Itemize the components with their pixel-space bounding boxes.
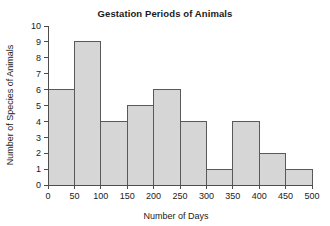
x-axis-tick-label: 100 (93, 191, 108, 201)
histogram-bar (74, 42, 100, 185)
x-axis-tick-label: 300 (199, 191, 214, 201)
histogram-bar (154, 90, 180, 185)
histogram-bar (259, 153, 285, 185)
x-axis-tick-label: 400 (252, 191, 267, 201)
y-axis-tick-label: 0 (36, 180, 41, 190)
chart-svg: Gestation Periods of Animals 05010015020… (0, 0, 330, 226)
histogram-bar (180, 121, 206, 185)
y-axis-tick-label: 9 (36, 37, 41, 47)
y-axis-tick-label: 6 (36, 85, 41, 95)
histogram-bar (127, 106, 153, 186)
x-axis-tick-label: 200 (146, 191, 161, 201)
histogram-chart: Gestation Periods of Animals 05010015020… (0, 0, 330, 226)
x-axis-label: Number of Days (143, 211, 209, 221)
histogram-bar (233, 121, 259, 185)
x-axis-tick-label: 500 (304, 191, 319, 201)
x-axis-tick-label: 250 (172, 191, 187, 201)
y-axis-tick-label: 3 (36, 133, 41, 143)
y-axis-tick-label: 10 (31, 21, 41, 31)
histogram-bar (48, 90, 74, 185)
x-axis-tick-label: 50 (69, 191, 79, 201)
y-axis-tick-label: 4 (36, 117, 41, 127)
y-axis-tick-label: 7 (36, 69, 41, 79)
x-axis-tick-label: 0 (45, 191, 50, 201)
x-axis-tick-label: 150 (120, 191, 135, 201)
y-axis-tick-label: 5 (36, 101, 41, 111)
histogram-bar (101, 121, 127, 185)
y-axis-label: Number of Species of Animals (5, 44, 15, 165)
histogram-bar (206, 169, 232, 185)
chart-title: Gestation Periods of Animals (98, 8, 233, 19)
histogram-bar (286, 169, 312, 185)
y-axis-tick-label: 1 (36, 164, 41, 174)
x-axis-tick-label: 450 (278, 191, 293, 201)
y-axis-tick-label: 2 (36, 148, 41, 158)
y-axis-tick-label: 8 (36, 53, 41, 63)
x-axis-tick-label: 350 (225, 191, 240, 201)
